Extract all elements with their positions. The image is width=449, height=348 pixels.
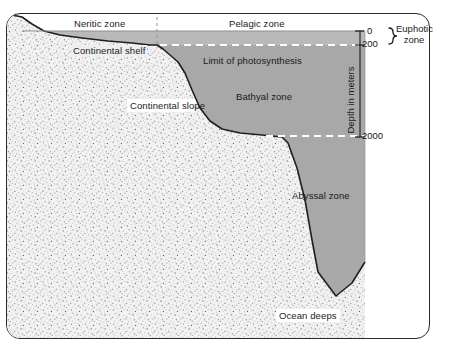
label-bathyal-zone: Bathyal zone [236,91,292,102]
depth-tick-200: 200 [362,38,378,49]
label-euphotic-zone: Euphotic zone [396,23,432,45]
euphotic-water-band [157,31,365,45]
label-continental-shelf: Continental shelf [71,45,147,56]
depth-tick-0: 0 [367,25,372,36]
label-abyssal-zone: Abyssal zone [292,190,334,201]
label-pelagic-zone: Pelagic zone [229,18,285,29]
label-continental-slope: Continental slope [127,99,195,112]
label-depth-in-meters: Depth in meters [345,52,356,148]
ocean-cross-section [0,0,449,348]
label-ocean-deeps: Ocean deeps [276,309,340,322]
label-neritic-zone: Neritic zone [74,18,125,29]
label-limit-of-photosynthesis: Limit of photosynthesis [203,55,302,66]
depth-tick-2000: 2000 [362,130,383,141]
ocean-zones-figure: Neritic zone Pelagic zone Continental sh… [0,0,449,348]
